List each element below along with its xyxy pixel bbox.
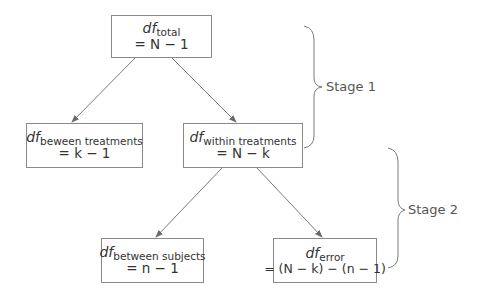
formula: = k − 1 xyxy=(59,147,111,161)
arrow-within-to-error xyxy=(257,168,322,237)
df-symbol: df xyxy=(26,129,40,145)
arrow-total-to-within-treatments xyxy=(172,58,236,122)
node-df-error: dferror = (N − k) − (n − 1) xyxy=(273,238,377,283)
df-symbol: df xyxy=(305,245,319,261)
df-subscript: beween treatments xyxy=(40,135,143,147)
arrow-within-to-between-subjects xyxy=(156,168,222,237)
formula: = n − 1 xyxy=(126,262,179,276)
formula: = N − 1 xyxy=(134,38,188,52)
node-df-between-treatments: dfbeween treatments = k − 1 xyxy=(26,123,143,168)
df-subscript: error xyxy=(319,251,344,263)
node-df-between-subjects: dfbetween subjects = n − 1 xyxy=(101,238,204,283)
df-symbol: df xyxy=(143,20,157,36)
arrow-total-to-between-treatments xyxy=(72,58,135,122)
stage-1-label: Stage 1 xyxy=(326,79,376,94)
df-subscript: within treatments xyxy=(203,135,296,147)
brace-stage-2 xyxy=(388,148,405,268)
df-subscript: between subjects xyxy=(113,250,205,262)
node-df-total: dftotal = N − 1 xyxy=(111,15,212,58)
df-symbol: df xyxy=(99,244,113,260)
formula: = N − k xyxy=(216,147,269,161)
node-df-within-treatments: dfwithin treatments = N − k xyxy=(183,123,303,168)
df-subscript: total xyxy=(156,26,180,38)
stage-2-label: Stage 2 xyxy=(408,202,458,217)
formula: = (N − k) − (n − 1) xyxy=(264,263,386,276)
brace-stage-1 xyxy=(304,26,322,148)
df-symbol: df xyxy=(189,129,203,145)
